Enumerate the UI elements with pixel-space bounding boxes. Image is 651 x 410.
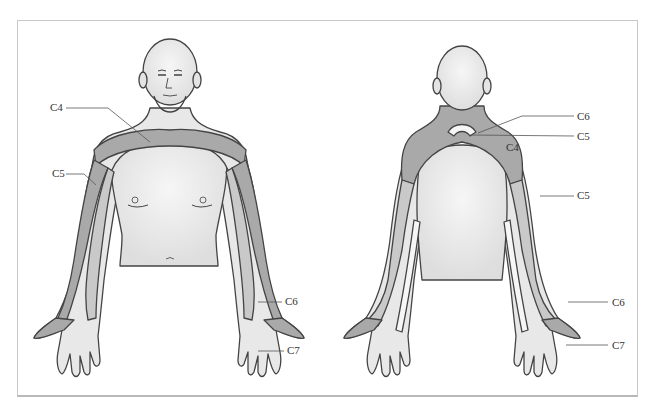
label-anterior-c5: C5 xyxy=(52,168,65,179)
anterior-figure xyxy=(34,39,304,377)
label-posterior-c7-hand: C7 xyxy=(612,340,625,351)
label-posterior-c6-forearm: C6 xyxy=(612,297,625,308)
label-anterior-c6: C6 xyxy=(285,296,298,307)
posterior-figure xyxy=(344,46,580,377)
label-anterior-c7: C7 xyxy=(287,345,300,356)
label-posterior-c6-top: C6 xyxy=(577,111,590,122)
label-posterior-c4: C4 xyxy=(506,142,519,153)
label-anterior-c4: C4 xyxy=(50,102,63,113)
label-posterior-c5-top: C5 xyxy=(577,131,590,142)
label-posterior-c5-arm: C5 xyxy=(577,190,590,201)
dermatome-illustration xyxy=(0,0,651,410)
clipped-caption xyxy=(17,403,217,409)
